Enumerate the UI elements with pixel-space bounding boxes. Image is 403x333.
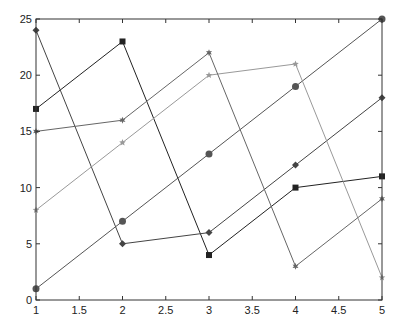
x-tick-label: 1.5 — [72, 304, 87, 316]
circle-marker-icon — [206, 150, 213, 157]
y-tick-label: 0 — [26, 294, 32, 306]
square-marker-icon — [293, 185, 299, 191]
x-axis-ticks: 11.522.533.544.55 — [33, 19, 385, 316]
x-tick-label: 1 — [33, 304, 39, 316]
series-4 — [33, 61, 386, 281]
series-layer — [33, 16, 386, 293]
star-marker-icon — [292, 61, 299, 67]
x-tick-label: 4.5 — [331, 304, 346, 316]
x-tick-label: 4 — [292, 304, 298, 316]
circle-marker-icon — [292, 83, 299, 90]
x-tick-label: 3 — [206, 304, 212, 316]
x-tick-label: 5 — [379, 304, 385, 316]
hexagram-marker-icon — [293, 263, 299, 270]
square-marker-icon — [120, 38, 126, 44]
line-chart: 11.522.533.544.55 0510152025 — [0, 0, 403, 333]
y-tick-label: 5 — [26, 238, 32, 250]
series-line — [36, 64, 382, 278]
y-tick-label: 15 — [20, 125, 32, 137]
series-3 — [33, 16, 386, 293]
square-marker-icon — [206, 252, 212, 258]
y-tick-label: 25 — [20, 13, 32, 25]
diamond-marker-icon — [119, 240, 126, 247]
y-tick-label: 20 — [20, 69, 32, 81]
series-1 — [33, 38, 385, 258]
circle-marker-icon — [119, 218, 126, 225]
series-2 — [33, 27, 386, 248]
hexagram-marker-icon — [206, 49, 212, 56]
x-tick-label: 2.5 — [158, 304, 173, 316]
y-axis-ticks: 0510152025 — [20, 13, 382, 306]
series-line — [36, 30, 382, 244]
y-tick-label: 10 — [20, 182, 32, 194]
x-tick-label: 3.5 — [245, 304, 260, 316]
series-5 — [33, 49, 385, 270]
x-tick-label: 2 — [119, 304, 125, 316]
